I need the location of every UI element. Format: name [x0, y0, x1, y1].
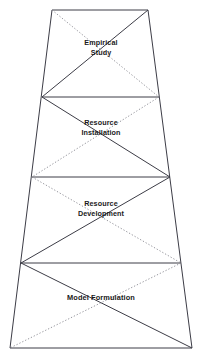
layer-3-dotted-diagonal [32, 177, 181, 263]
pyramid-outline-svg [0, 0, 202, 358]
pyramid-outline-group [10, 10, 192, 348]
pyramid-diagram: Empirical Study Resource Installation Re… [0, 0, 202, 358]
layer-3-solid-diagonal [21, 177, 170, 263]
outline-left-edge [10, 10, 52, 348]
layer-4-diagonals [10, 263, 192, 348]
layer-4-solid-diagonal [21, 263, 192, 348]
layer-1-dotted-diagonal [52, 10, 159, 97]
layer-2-dotted-diagonal [32, 97, 159, 177]
layer-3-diagonals [21, 177, 181, 263]
layer-1-solid-diagonal [42, 10, 148, 97]
layer-2-solid-diagonal [42, 97, 170, 177]
layer-2-diagonals [32, 97, 170, 177]
layer-divider-group [21, 97, 181, 263]
layer-1-diagonals [42, 10, 159, 97]
outline-right-edge [148, 10, 192, 348]
layer-4-dotted-diagonal [10, 263, 181, 348]
